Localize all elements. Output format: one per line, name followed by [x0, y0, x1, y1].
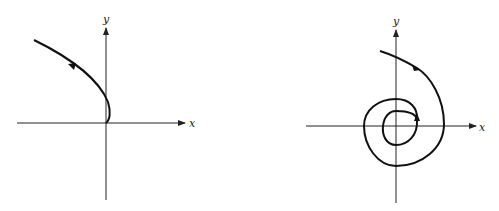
- left-y-label: y: [102, 13, 110, 26]
- right-panel: x y: [306, 15, 486, 203]
- right-x-label: x: [479, 121, 486, 134]
- right-spiral-trajectory: [364, 51, 444, 166]
- right-y-label: y: [392, 15, 400, 28]
- left-direction-arrow-icon: [68, 63, 76, 70]
- figure: x y x y: [0, 0, 499, 211]
- left-panel: x y: [17, 13, 196, 200]
- left-x-label: x: [189, 117, 196, 130]
- left-trajectory: [34, 40, 110, 123]
